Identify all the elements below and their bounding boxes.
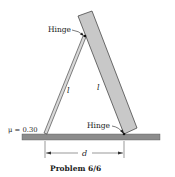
diagram-canvas: Hinge Hinge l l μ = 0.30 d Problem 6/6 [0, 0, 175, 177]
ground [22, 134, 160, 140]
hinge-bottom-label: Hinge [87, 121, 111, 130]
friction-label: μ = 0.30 [8, 126, 38, 134]
caption: Problem 6/6 [50, 164, 101, 173]
hinge-top-pin [84, 35, 87, 38]
arrowhead-icon [46, 152, 51, 155]
board-length-label: l [97, 83, 100, 92]
rod [44, 36, 86, 134]
arrowhead-icon [118, 152, 123, 155]
rod-length-label: l [67, 86, 70, 95]
distance-label: d [82, 149, 87, 158]
hinge-top-label: Hinge [48, 25, 72, 34]
board [78, 11, 137, 134]
